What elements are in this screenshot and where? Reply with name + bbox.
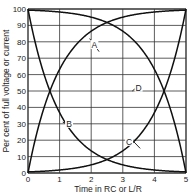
curve-label-a: A [92,40,98,50]
y-tick-label: 20 [17,136,26,145]
x-tick-label: 1 [57,175,62,184]
y-tick-label: 50 [17,87,26,96]
curve-d [28,10,186,173]
x-tick-label: 5 [184,175,189,184]
x-tick-label: 4 [152,175,157,184]
grid [28,9,186,173]
y-tick-label: 10 [17,153,26,162]
y-axis-label: Per cent of full voltage or current [1,29,11,152]
curve-b [28,9,186,172]
curve-label-b: B [66,119,72,129]
chart: 0123450102030405060708090100 ABCD Time i… [0,0,191,195]
curve-a [28,10,186,173]
x-tick-label: 2 [89,175,94,184]
y-tick-label: 100 [13,5,27,14]
annotation-arrow [134,142,140,149]
curve-labels: ABCD [63,39,143,149]
x-tick-label: 3 [121,175,126,184]
y-tick-label: 40 [17,103,26,112]
y-tick-label: 60 [17,71,26,80]
y-tick-label: 0 [22,169,27,178]
curve-label-d: D [136,83,142,93]
y-tick-label: 30 [17,120,26,129]
y-tick-label: 70 [17,54,26,63]
curve-label-c: C [126,137,132,147]
curve-c [28,9,186,172]
x-tick-label: 0 [26,175,31,184]
y-tick-label: 80 [17,38,26,47]
y-tick-label: 90 [17,21,26,30]
x-axis-label: Time in RC or L/R [74,184,142,194]
